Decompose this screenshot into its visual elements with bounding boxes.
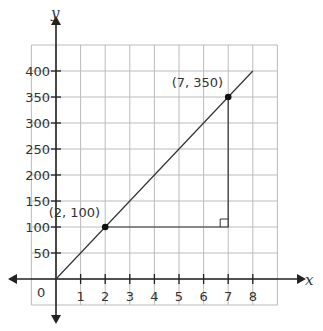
x-tick-label: 2 <box>101 289 109 304</box>
y-tick-label: 150 <box>25 194 50 209</box>
data-point-label: (7, 350) <box>172 75 224 90</box>
x-tick-label: 7 <box>224 289 232 304</box>
data-point-label: (2, 100) <box>49 205 101 220</box>
x-tick-label: 6 <box>199 289 207 304</box>
y-tick-label: 50 <box>33 246 50 261</box>
x-tick-label: 3 <box>126 289 134 304</box>
coordinate-plane: (2, 100)(7, 350) 12345678501001502002503… <box>0 0 323 331</box>
y-tick-label: 400 <box>25 64 50 79</box>
x-tick-label: 1 <box>76 289 84 304</box>
x-tick-label: 5 <box>175 289 183 304</box>
data-point <box>102 224 109 231</box>
y-tick-label: 250 <box>25 142 50 157</box>
data-point <box>225 94 232 101</box>
x-axis-label: x <box>305 271 314 289</box>
y-axis-label: y <box>50 4 60 22</box>
right-angle-marker <box>220 219 228 227</box>
x-tick-label: 8 <box>249 289 257 304</box>
y-tick-label: 100 <box>25 220 50 235</box>
x-tick-label: 4 <box>150 289 158 304</box>
tick-labels: 1234567850100150200250300350400 <box>25 64 257 304</box>
y-tick-label: 350 <box>25 90 50 105</box>
axes <box>8 16 306 324</box>
y-tick-label: 300 <box>25 116 50 131</box>
origin-label: 0 <box>37 285 45 300</box>
arrow-down-icon <box>51 315 61 324</box>
y-tick-label: 200 <box>25 168 50 183</box>
arrow-left-icon <box>8 274 17 284</box>
